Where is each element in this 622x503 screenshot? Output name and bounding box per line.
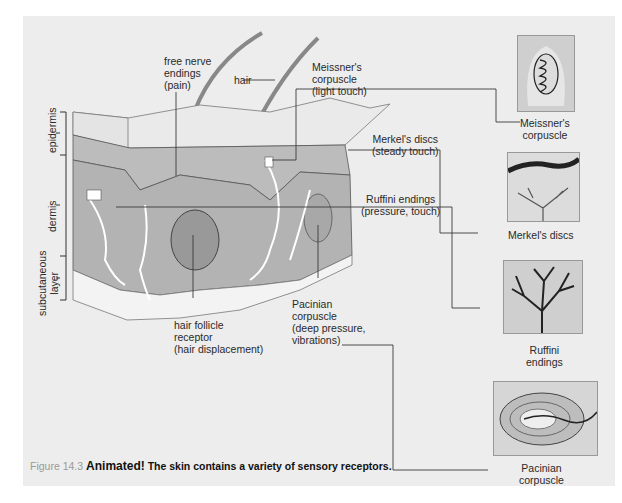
inset-label-meissner: Meissner's corpuscle [520, 117, 570, 141]
label-hair: hair [234, 74, 252, 86]
label-merkel-discs: Merkel's discs (steady touch) [372, 133, 439, 157]
inset-label-ruffini: Ruffini endings [526, 344, 563, 368]
inset-ruffini-image [503, 260, 583, 334]
caption-text: The skin contains a variety of sensory r… [145, 460, 392, 472]
inset-pacinian-image [493, 381, 598, 456]
layer-label-dermis: dermis [46, 200, 58, 232]
caption-lead: Animated! [86, 459, 145, 473]
label-free-nerve-endings: free nerve endings (pain) [164, 55, 211, 91]
inset-meissner-image [517, 35, 575, 112]
label-meissner-corpuscle: Meissner's corpuscle (light touch) [312, 61, 367, 97]
inset-label-merkel: Merkel's discs [508, 229, 574, 241]
inset-label-pacinian: Pacinian corpuscle [519, 462, 564, 486]
layer-label-epidermis: epidermis [46, 107, 58, 153]
label-hair-follicle-receptor: hair follicle receptor (hair displacemen… [174, 319, 263, 355]
label-ruffini-endings: Ruffini endings (pressure, touch) [361, 193, 440, 217]
inset-merkel-image [507, 152, 580, 222]
label-pacinian-corpuscle: Pacinian corpuscle (deep pressure, vibra… [292, 298, 366, 346]
figure-number: Figure 14.3 [30, 460, 83, 472]
figure-caption: Figure 14.3 Animated! The skin contains … [30, 460, 392, 473]
layer-label-subcutaneous: subcutaneous layer [36, 251, 60, 316]
